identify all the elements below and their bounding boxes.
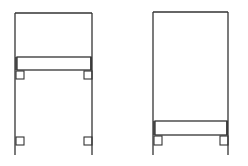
square-bracket bbox=[220, 136, 228, 145]
square-bracket bbox=[84, 137, 92, 145]
horizontal-bar bbox=[155, 121, 227, 135]
left-frame-figure bbox=[15, 13, 92, 155]
square-bracket bbox=[16, 71, 24, 79]
right-frame-figure bbox=[153, 12, 228, 155]
horizontal-bar bbox=[17, 57, 91, 70]
square-bracket bbox=[154, 136, 162, 145]
square-bracket bbox=[84, 71, 92, 79]
diagram-canvas bbox=[0, 0, 248, 166]
square-bracket bbox=[16, 137, 24, 145]
